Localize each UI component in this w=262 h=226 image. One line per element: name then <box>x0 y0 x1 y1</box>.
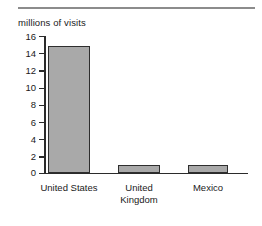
y-tick-8 <box>39 105 44 106</box>
y-tick-label-4: 4 <box>11 135 36 145</box>
x-label-line: United States <box>29 182 109 194</box>
plot-area: 16 14 12 10 8 6 4 2 0 United States Unit… <box>0 0 262 226</box>
y-tick-label-2: 2 <box>11 152 36 162</box>
y-tick-label-12: 12 <box>11 66 36 76</box>
y-tick-0 <box>39 173 44 174</box>
y-tick-label-10: 10 <box>11 83 36 93</box>
y-tick-10 <box>39 88 44 89</box>
x-label-line: United <box>104 182 174 194</box>
y-tick-label-6: 6 <box>11 118 36 128</box>
y-tick-label-14: 14 <box>11 49 36 59</box>
y-tick-label-16: 16 <box>11 32 36 42</box>
y-tick-label-0: 0 <box>11 168 36 178</box>
y-tick-12 <box>39 70 44 71</box>
x-label-united-kingdom: United Kingdom <box>104 182 174 206</box>
x-label-mexico: Mexico <box>173 182 243 194</box>
x-label-line: Mexico <box>173 182 243 194</box>
bar-mexico <box>188 165 228 173</box>
x-label-united-states: United States <box>29 182 109 194</box>
y-tick-2 <box>39 156 44 157</box>
y-tick-14 <box>39 53 44 54</box>
bar-united-states <box>48 46 90 173</box>
y-axis-line <box>44 36 46 174</box>
y-tick-label-8: 8 <box>11 100 36 110</box>
bar-united-kingdom <box>118 165 160 173</box>
y-tick-6 <box>39 122 44 123</box>
y-tick-16 <box>39 36 44 37</box>
chart-figure: millions of visits 16 14 12 10 8 6 4 2 0… <box>0 0 262 226</box>
x-label-line: Kingdom <box>104 194 174 206</box>
y-tick-4 <box>39 139 44 140</box>
